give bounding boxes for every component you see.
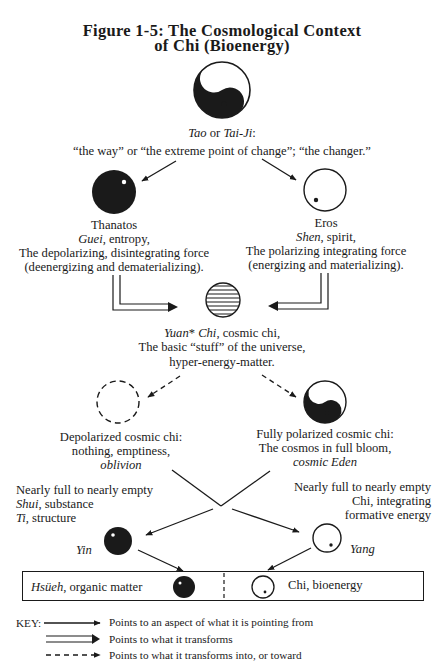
key-double-line-arrow-icon (46, 634, 100, 644)
yang-side-line3: formative energy (345, 509, 431, 522)
yin-label: Yin (76, 544, 92, 557)
eros-name: Eros (314, 217, 337, 230)
cross-line-left (172, 470, 221, 506)
yang-side-line1: Nearly full to nearly empty (294, 481, 431, 494)
dashed-arrow-to-depolarized (148, 376, 180, 397)
depolarized-dashed-circle-icon (97, 381, 139, 423)
tao-label: Tao or Tai-Ji: (188, 127, 256, 140)
double-arrow-thanatos-to-yuan-chi (113, 275, 178, 312)
thanatos-term: Guei, entropy, (78, 233, 150, 246)
arrow-to-yin (146, 509, 213, 535)
tao-description: “the way” or “the extreme point of chang… (73, 145, 371, 158)
yin-side-line3: Ti, structure (16, 512, 76, 525)
thanatos-line3: The depolarizing, disintegrating force (19, 247, 209, 260)
arrow-yin-to-box (138, 550, 183, 571)
cross-line-right (221, 471, 270, 506)
yang-label: Yang (350, 543, 375, 556)
figure-title-line2: of Chi (Bioenergy) (154, 38, 290, 55)
arrow-yang-to-box (268, 548, 311, 570)
key-item-double: Points to what it transforms (109, 634, 233, 645)
thanatos-name: Thanatos (91, 219, 137, 232)
key-item-solid: Points to an aspect of what it is pointi… (109, 617, 313, 628)
yuan-chi-line3: hyper-energy-matter. (169, 356, 274, 369)
polarized-line1: Fully polarized cosmic chi: (256, 428, 393, 441)
yin-filled-circle-icon (104, 527, 132, 555)
arrow-tao-to-eros (262, 159, 296, 180)
eros-line4: (energizing and materializing). (248, 259, 403, 272)
polarized-line3: cosmic Eden (293, 456, 357, 469)
arrow-to-yang (232, 509, 299, 532)
thanatos-line4: (deenergizing and dematerializing). (24, 261, 203, 274)
tao-term: Tao (188, 126, 206, 140)
depolarized-line3: oblivion (100, 459, 141, 472)
eros-line3: The polarizing integrating force (246, 245, 407, 258)
yuan-chi-line2: The basic “stuff” of the universe, (139, 341, 306, 354)
depolarized-line1: Depolarized cosmic chi: (60, 431, 182, 444)
chi-bioenergy-label: Chi, bioenergy (288, 579, 363, 592)
yang-empty-circle-icon (313, 524, 341, 552)
eros-empty-circle-icon (304, 169, 346, 211)
yin-side-line1: Nearly full to nearly empty (16, 484, 153, 497)
thanatos-filled-circle-icon (92, 170, 136, 214)
yuan-chi-term: Yuan* Chi, cosmic chi, (164, 327, 280, 340)
dashed-arrow-to-polarized (262, 375, 296, 397)
arrow-tao-to-thanatos (142, 161, 176, 181)
eros-term: Shen, spirit, (296, 231, 356, 244)
hsueh-label: Hsüeh, organic matter (31, 581, 142, 594)
key-item-dashed: Points to what it transforms into, or to… (109, 650, 302, 661)
tai-ji-term: Tai-Ji (223, 126, 252, 140)
tao-yin-yang-icon (183, 59, 250, 129)
polarized-line2: The cosmos in full bloom, (259, 442, 392, 455)
yin-side-line2: Shui, substance (16, 498, 94, 511)
double-arrow-eros-to-yuan-chi (268, 273, 328, 311)
yang-side-line2: Chi, integrating (352, 495, 431, 508)
key-label: KEY: (16, 618, 41, 629)
yuan-chi-striped-circle-icon (200, 283, 246, 317)
depolarized-line2: nothing, emptiness, (72, 445, 170, 458)
polarized-yin-yang-icon (296, 379, 346, 431)
